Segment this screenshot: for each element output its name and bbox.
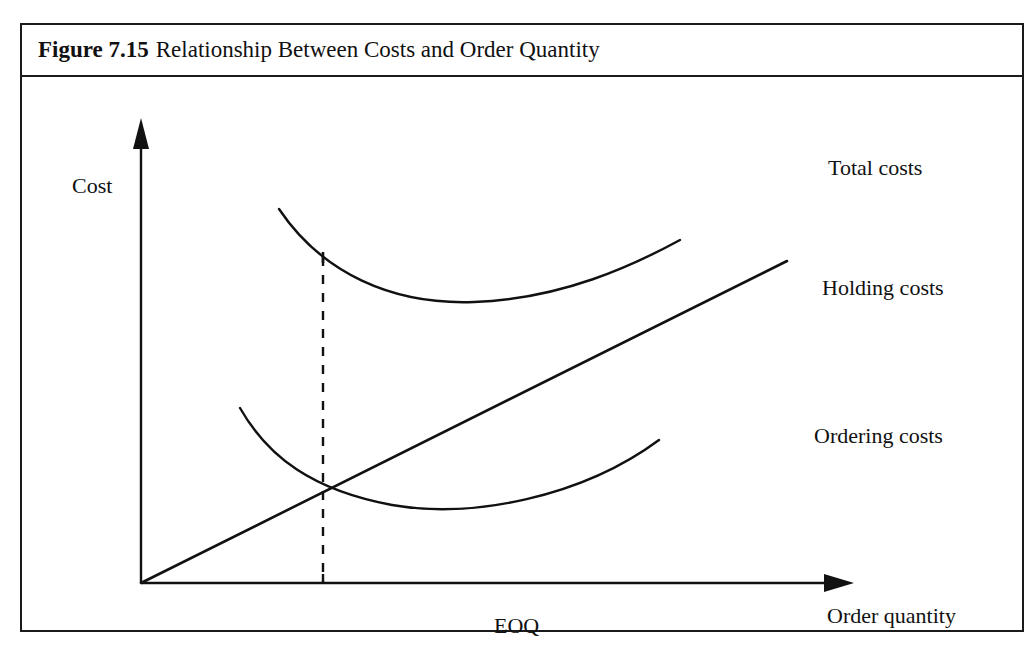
figure-frame: Figure 7.15Relationship Between Costs an… bbox=[20, 23, 1024, 632]
eoq-label: EOQ bbox=[494, 613, 539, 639]
chart-plot-area: Cost Total costs Holding costs Ordering … bbox=[22, 77, 1022, 630]
x-axis bbox=[141, 574, 854, 592]
ordering-costs-label: Ordering costs bbox=[814, 423, 943, 449]
figure-number: Figure 7.15 bbox=[38, 37, 149, 62]
page-title: Figure 7.15Relationship Between Costs an… bbox=[38, 35, 600, 65]
ordering-costs-curve bbox=[240, 408, 659, 509]
figure-title-text: Relationship Between Costs and Order Qua… bbox=[156, 37, 600, 62]
figure-caption-bar: Figure 7.15Relationship Between Costs an… bbox=[22, 25, 1022, 77]
total-costs-curve bbox=[279, 209, 680, 302]
holding-costs-line bbox=[141, 261, 787, 583]
holding-costs-label: Holding costs bbox=[822, 275, 944, 301]
y-axis bbox=[133, 118, 149, 583]
total-costs-label: Total costs bbox=[828, 155, 922, 181]
x-axis-label: Order quantity bbox=[827, 603, 956, 629]
y-axis-label: Cost bbox=[72, 173, 112, 199]
